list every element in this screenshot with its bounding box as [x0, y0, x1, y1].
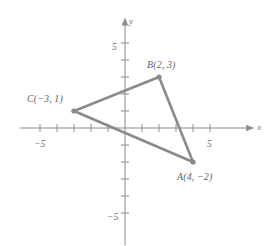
y-axis-label: y [129, 17, 133, 26]
x-axis-label: x [257, 123, 261, 132]
y-tick-label-negative-5: −5 [107, 213, 118, 223]
vertex-marker-c [71, 108, 76, 113]
x-tick-label-positive-5: 5 [207, 140, 212, 150]
vertex-marker-a [190, 159, 195, 164]
plot-canvas [0, 0, 268, 246]
point-label-a: A(4, −2) [177, 172, 212, 182]
vertex-marker-b [156, 74, 161, 79]
point-label-b: B(2, 3) [147, 60, 175, 70]
triangle-group [74, 77, 193, 162]
y-tick-label-positive-5: 5 [112, 43, 117, 53]
point-label-c: C(−3, 1) [27, 94, 63, 104]
coordinate-plane-figure: x y −5 5 5 −5 A(4, −2) B(2, 3) C(−3, 1) [0, 0, 268, 246]
x-tick-label-negative-5: −5 [34, 140, 45, 150]
axes-group [20, 18, 255, 246]
